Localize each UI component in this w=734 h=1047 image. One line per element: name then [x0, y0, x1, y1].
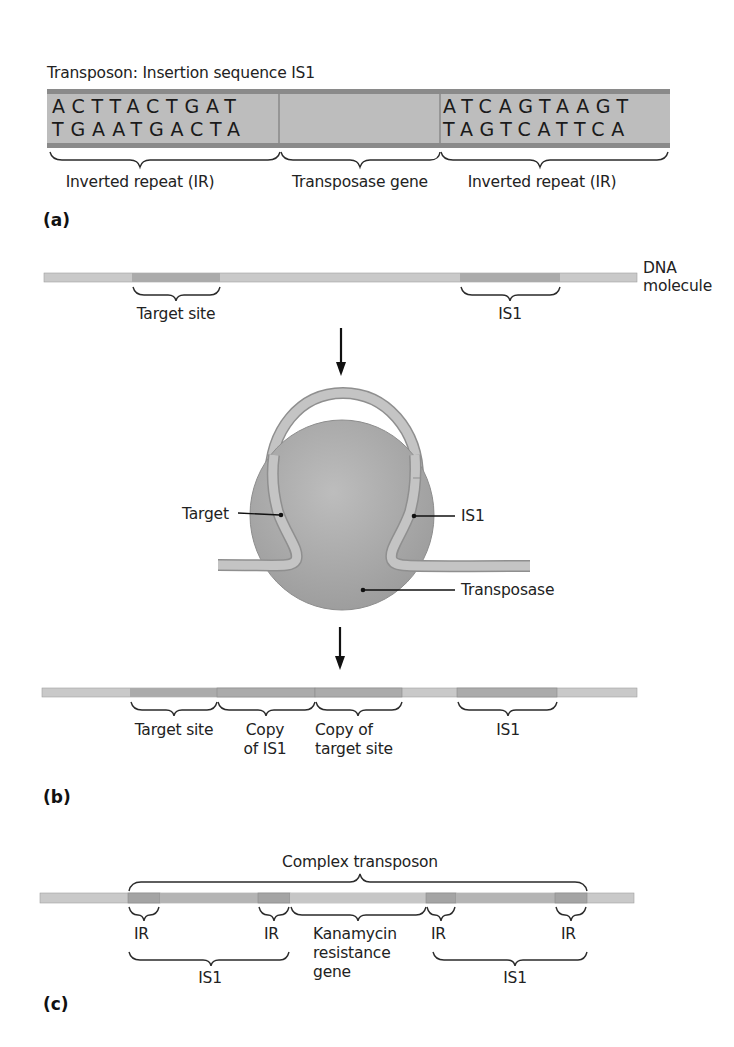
kanamycin-label-line2: resistance	[313, 944, 390, 962]
kanamycin-label-line1: Kanamycin	[313, 925, 397, 943]
transposase-callout: Transposase	[461, 581, 554, 599]
left-ir-bottom-strand: TGAATGACTA	[52, 118, 247, 140]
copy-is1-label-line2: of IS1	[230, 740, 300, 758]
panel-b-label: (b)	[43, 787, 71, 807]
is1-label-after: IS1	[478, 721, 538, 739]
ir-label-1: IR	[134, 925, 149, 943]
arrow-down-icon	[335, 627, 345, 670]
panel-c-label: (c)	[43, 994, 69, 1014]
left-ir-label: Inverted repeat (IR)	[60, 173, 220, 191]
is1-label-top: IS1	[480, 305, 540, 323]
dna-molecule-label-line2: molecule	[643, 277, 712, 295]
ir-label-2: IR	[264, 925, 279, 943]
complex-transposon-strand	[40, 893, 634, 903]
ir-label-3: IR	[431, 925, 446, 943]
target-site-label-after: Target site	[114, 721, 234, 739]
target-site-label: Target site	[116, 305, 236, 323]
complex-transposon-title: Complex transposon	[280, 853, 440, 871]
arrow-down-icon	[336, 328, 346, 376]
ir-label-4: IR	[561, 925, 576, 943]
is1-callout: IS1	[461, 507, 485, 525]
dna-molecule-after	[42, 688, 637, 697]
transposase-complex	[218, 393, 530, 610]
panel-a-title: Transposon: Insertion sequence IS1	[47, 64, 315, 82]
dna-molecule-top	[44, 273, 637, 282]
right-ir-top-strand: ATCAGTAAGT	[443, 95, 635, 117]
right-ir-label: Inverted repeat (IR)	[462, 173, 622, 191]
dna-molecule-label-line1: DNA	[643, 259, 677, 277]
panel-a-label: (a)	[43, 210, 70, 230]
right-ir-bottom-strand: TAGTCATTCA	[443, 118, 631, 140]
copy-is1-label-line1: Copy	[230, 721, 300, 739]
complex-transposon-bracket	[129, 874, 587, 891]
kanamycin-label-line3: gene	[313, 963, 351, 981]
copy-target-label-line2: target site	[315, 740, 393, 758]
panel-a-brackets	[50, 152, 668, 167]
copy-target-label-line1: Copy of	[315, 721, 373, 739]
diagram-graphics	[0, 0, 734, 1047]
left-ir-top-strand: ACTTACTGAT	[52, 95, 243, 117]
is1-right-label: IS1	[490, 969, 540, 987]
is1-left-label: IS1	[185, 969, 235, 987]
target-callout: Target	[182, 505, 229, 523]
transposase-gene-label: Transposase gene	[282, 173, 438, 191]
